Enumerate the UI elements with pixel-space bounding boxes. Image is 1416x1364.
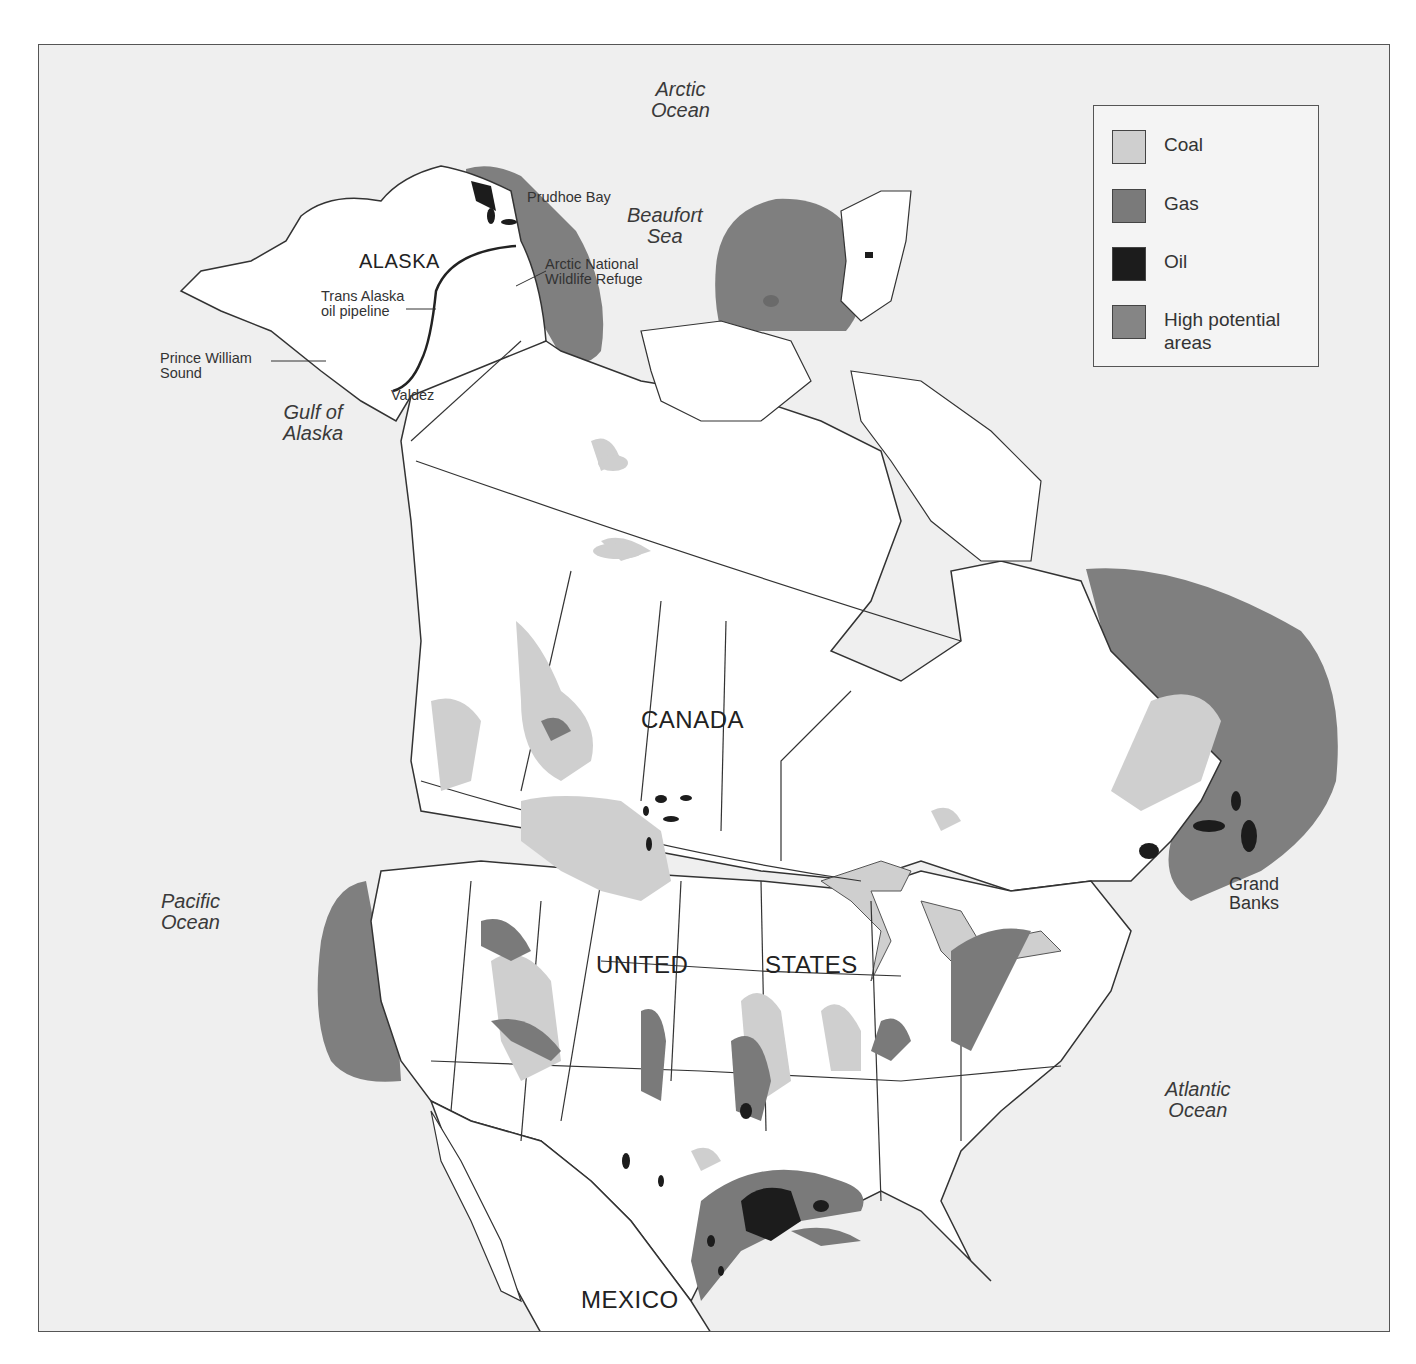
label-text: Beaufort [627, 205, 703, 226]
label-text: Sound [160, 366, 252, 381]
label-text: Wildlife Refuge [545, 272, 643, 287]
label-text: Arctic [651, 79, 710, 100]
label-alaska: ALASKA [359, 251, 440, 272]
legend-label: Coal [1164, 134, 1203, 157]
label-text: oil pipeline [321, 304, 404, 319]
label-text: Atlantic [1165, 1079, 1231, 1100]
label-gulf-of-alaska: Gulf of Alaska [283, 402, 343, 444]
legend-label-line: High potential [1164, 309, 1280, 332]
high-potential-swatch-icon [1112, 305, 1146, 339]
label-text: Gulf of [283, 402, 343, 423]
label-atlantic-ocean: Atlantic Ocean [1165, 1079, 1231, 1121]
label-states: STATES [765, 952, 858, 977]
label-text: Trans Alaska [321, 289, 404, 304]
label-prudhoe-bay: Prudhoe Bay [527, 190, 611, 205]
legend-item-oil: Oil [1112, 247, 1187, 281]
label-valdez: Valdez [391, 388, 434, 403]
legend-label-line: areas [1164, 332, 1280, 355]
label-arctic-ocean: Arctic Ocean [651, 79, 710, 121]
label-text: Pacific [161, 891, 220, 912]
land-ellesmere [841, 191, 911, 321]
label-text: Ocean [161, 912, 220, 933]
label-text: Banks [1229, 894, 1279, 913]
label-arctic-national-wildlife-refuge: Arctic National Wildlife Refuge [545, 257, 643, 287]
label-text: Grand [1229, 875, 1279, 894]
label-text: Arctic National [545, 257, 643, 272]
label-canada: CANADA [641, 707, 744, 732]
label-mexico: MEXICO [581, 1287, 679, 1312]
map-frame: Arctic Ocean Beaufort Sea Gulf of Alaska… [38, 44, 1390, 1332]
legend-item-high-potential: High potential areas [1112, 305, 1280, 355]
gas-swatch-icon [1112, 189, 1146, 223]
label-grand-banks: Grand Banks [1229, 875, 1279, 913]
legend-item-coal: Coal [1112, 130, 1203, 164]
legend-label: High potential areas [1164, 309, 1280, 355]
coal-swatch-icon [1112, 130, 1146, 164]
map-legend: Coal Gas Oil High potential areas [1093, 105, 1319, 367]
oil-swatch-icon [1112, 247, 1146, 281]
legend-item-gas: Gas [1112, 189, 1199, 223]
label-text: Ocean [1165, 1100, 1231, 1121]
legend-label: Gas [1164, 193, 1199, 216]
legend-label: Oil [1164, 251, 1187, 274]
label-pacific-ocean: Pacific Ocean [161, 891, 220, 933]
label-text: Prince William [160, 351, 252, 366]
label-beaufort-sea: Beaufort Sea [627, 205, 703, 247]
label-trans-alaska-pipeline: Trans Alaska oil pipeline [321, 289, 404, 319]
label-text: Sea [627, 226, 703, 247]
label-text: Ocean [651, 100, 710, 121]
label-text: Alaska [283, 423, 343, 444]
label-united: UNITED [596, 952, 688, 977]
label-prince-william-sound: Prince William Sound [160, 351, 252, 381]
